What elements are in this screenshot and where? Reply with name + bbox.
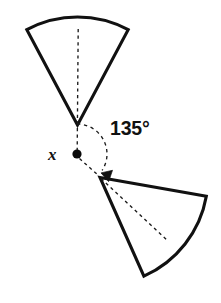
figure-canvas: 135° x	[0, 0, 221, 303]
center-of-rotation-dot	[72, 149, 81, 158]
center-point-label: x	[47, 145, 57, 164]
rotation-figure: 135° x	[0, 0, 221, 303]
angle-label: 135°	[110, 117, 150, 139]
